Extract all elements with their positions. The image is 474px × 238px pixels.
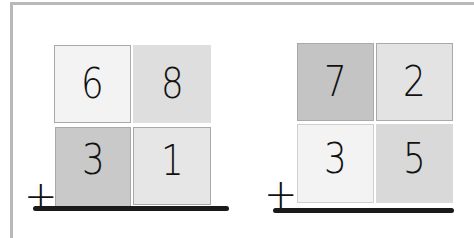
digit: 2 <box>403 61 426 103</box>
bottom-ones-box: 5 <box>376 124 453 203</box>
digit: 1 <box>161 140 184 182</box>
sum-line <box>273 208 454 213</box>
digit: 7 <box>324 61 347 103</box>
bottom-ones-box: 1 <box>133 127 211 205</box>
digit: 8 <box>161 63 184 105</box>
top-ones-box: 2 <box>376 43 453 121</box>
digit: 6 <box>81 63 104 105</box>
sum-line <box>33 206 229 211</box>
frame-border-top <box>11 2 474 5</box>
top-ones-box: 8 <box>133 45 211 123</box>
digit: 3 <box>82 139 105 181</box>
digit: 5 <box>403 138 426 180</box>
bottom-tens-box: 3 <box>55 127 131 207</box>
bottom-tens-box: 3 <box>297 124 374 203</box>
top-tens-box: 6 <box>54 45 131 123</box>
digit: 3 <box>324 138 347 180</box>
frame-border-left <box>10 2 13 238</box>
top-tens-box: 7 <box>297 43 374 121</box>
